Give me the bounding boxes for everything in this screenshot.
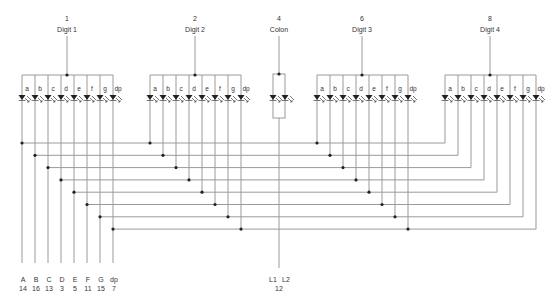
led-icon xyxy=(186,95,193,100)
led-icon xyxy=(520,95,527,100)
colon-label: Colon xyxy=(270,26,288,33)
segment-label: f xyxy=(91,85,93,92)
light-emission-icon xyxy=(38,96,44,102)
digit-label: Digit 2 xyxy=(185,26,205,34)
segment-label: f xyxy=(514,85,516,92)
digit-group-4: 8Digit 4abcdefgdp xyxy=(442,15,546,229)
led-icon xyxy=(160,95,167,100)
digit-pin-number: 2 xyxy=(193,15,197,22)
segment-label: f xyxy=(386,85,388,92)
light-emission-icon xyxy=(461,96,467,102)
led-icon xyxy=(97,95,104,100)
colon-cathode-pin: 12 xyxy=(275,285,283,292)
segment-label: d xyxy=(359,85,363,92)
led-icon xyxy=(84,95,91,100)
junction-node xyxy=(46,166,49,169)
segment-label: a xyxy=(320,85,324,92)
digit-pin-number: 6 xyxy=(360,15,364,22)
light-emission-icon xyxy=(103,96,109,102)
colon-l2-label: L2 xyxy=(282,276,290,283)
segment-pin-number: 15 xyxy=(97,285,105,292)
junction-node xyxy=(200,191,203,194)
junction-node xyxy=(328,154,331,157)
digit-group-1: 1Digit 1abcdefgdp xyxy=(19,15,123,263)
junction-node xyxy=(33,154,36,157)
light-emission-icon xyxy=(320,96,326,102)
colon-l1-label: L1 xyxy=(269,276,277,283)
light-emission-icon xyxy=(398,96,404,102)
led-icon xyxy=(314,95,321,100)
segment-pin-number: 13 xyxy=(45,285,53,292)
led-icon xyxy=(147,95,154,100)
led-icon xyxy=(533,95,540,100)
junction-node xyxy=(20,141,23,144)
light-emission-icon xyxy=(153,96,159,102)
light-emission-icon xyxy=(205,96,211,102)
junction-node xyxy=(406,228,409,231)
junction-node xyxy=(488,73,491,76)
segment-label: f xyxy=(219,85,221,92)
segment-label: dp xyxy=(537,85,545,93)
digit-label: Digit 3 xyxy=(352,26,372,34)
led-icon xyxy=(212,95,219,100)
light-emission-icon xyxy=(64,96,70,102)
digit-group-3: 6Digit 3abcdefgdp xyxy=(314,15,418,229)
junction-node xyxy=(239,228,242,231)
light-emission-icon xyxy=(192,96,198,102)
led-icon xyxy=(379,95,386,100)
digit-label: Digit 4 xyxy=(480,26,500,34)
segment-pin-number: 5 xyxy=(73,285,77,292)
segment-label: e xyxy=(500,85,504,92)
led-icon xyxy=(392,95,399,100)
led-icon xyxy=(366,95,373,100)
segment-label: a xyxy=(25,85,29,92)
led-icon xyxy=(340,95,347,100)
light-emission-icon xyxy=(513,96,519,102)
colon-pin-number: 4 xyxy=(277,15,281,22)
light-emission-icon xyxy=(90,96,96,102)
segment-label: c xyxy=(474,85,478,92)
light-emission-icon xyxy=(359,96,365,102)
light-emission-icon xyxy=(166,96,172,102)
led-icon xyxy=(32,95,39,100)
led-icon xyxy=(494,95,501,100)
led-icon xyxy=(173,95,180,100)
junction-node xyxy=(59,178,62,181)
segment-pin-name: A xyxy=(21,276,26,283)
junction-node xyxy=(393,215,396,218)
junction-node xyxy=(193,73,196,76)
segment-label: dp xyxy=(409,85,417,93)
led-icon xyxy=(353,95,360,100)
segment-pin-name: F xyxy=(86,276,90,283)
light-emission-icon xyxy=(116,96,122,102)
led-icon xyxy=(71,95,78,100)
colon-group: 4ColonL1L212 xyxy=(269,15,294,292)
segment-label: g xyxy=(103,85,107,93)
segment-label: d xyxy=(487,85,491,92)
junction-node xyxy=(213,203,216,206)
light-emission-icon xyxy=(448,96,454,102)
junction-node xyxy=(111,228,114,231)
led-icon xyxy=(468,95,475,100)
light-emission-icon xyxy=(333,96,339,102)
light-emission-icon xyxy=(487,96,493,102)
segment-pin-name: E xyxy=(73,276,78,283)
segment-label: d xyxy=(192,85,196,92)
segment-label: g xyxy=(526,85,530,93)
digit-label: Digit 1 xyxy=(57,26,77,34)
schematic-canvas: 1Digit 1abcdefgdp2Digit 2abcdefgdp6Digit… xyxy=(0,0,559,305)
led-icon xyxy=(455,95,462,100)
segment-pin-name: dp xyxy=(110,276,118,284)
segment-label: b xyxy=(38,85,42,92)
junction-node xyxy=(187,178,190,181)
segment-label: a xyxy=(153,85,157,92)
light-emission-icon xyxy=(51,96,57,102)
light-emission-icon xyxy=(179,96,185,102)
segment-label: b xyxy=(461,85,465,92)
light-emission-icon xyxy=(25,96,31,102)
led-icon xyxy=(110,95,117,100)
light-emission-icon xyxy=(539,96,545,102)
segment-label: d xyxy=(64,85,68,92)
junction-node xyxy=(360,73,363,76)
segment-label: b xyxy=(166,85,170,92)
